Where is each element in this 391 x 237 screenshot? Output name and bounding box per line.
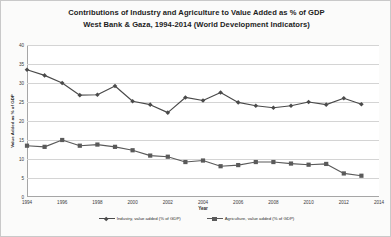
y-axis-tick-label: 25 bbox=[19, 100, 27, 105]
y-axis-tick-label: 35 bbox=[19, 62, 27, 67]
data-point-diamond bbox=[148, 102, 153, 107]
data-point-diamond bbox=[306, 100, 311, 105]
plot-area: 0510152025303540 19941996199820002002200… bbox=[27, 45, 379, 197]
data-point-diamond bbox=[201, 98, 206, 103]
y-axis-tick-label: 30 bbox=[19, 81, 27, 86]
data-point-square bbox=[60, 138, 64, 142]
series-agriculture bbox=[25, 138, 364, 178]
legend-swatch-icon bbox=[207, 216, 223, 221]
data-point-square bbox=[359, 174, 363, 178]
chart-title: Contributions of Industry and Agricultur… bbox=[1, 7, 391, 30]
data-point-square bbox=[219, 164, 223, 168]
series-plot bbox=[27, 45, 379, 197]
data-point-diamond bbox=[359, 102, 364, 107]
chart-image: Contributions of Industry and Agricultur… bbox=[0, 0, 391, 237]
legend-label: Industry, value added (% of GDP) bbox=[117, 216, 181, 221]
x-axis-tick-label: 2006 bbox=[233, 197, 243, 205]
data-point-diamond bbox=[42, 73, 47, 78]
x-axis-tick-label: 2002 bbox=[163, 197, 173, 205]
x-axis-tick-label: 2010 bbox=[303, 197, 313, 205]
series-industry bbox=[25, 67, 364, 115]
legend-entry[interactable]: Agriculture, value added (% of GDP) bbox=[207, 216, 295, 221]
series-line bbox=[27, 140, 361, 176]
data-point-square bbox=[183, 160, 187, 164]
data-point-square bbox=[289, 161, 293, 165]
x-axis-tick-label: 1998 bbox=[92, 197, 102, 205]
chart-legend: Industry, value added (% of GDP)Agricult… bbox=[1, 216, 391, 221]
data-point-square bbox=[166, 155, 170, 159]
data-point-square bbox=[254, 160, 258, 164]
x-axis-tick-label: 2008 bbox=[268, 197, 278, 205]
legend-entry[interactable]: Industry, value added (% of GDP) bbox=[99, 216, 181, 221]
x-axis-tick-label: 1996 bbox=[57, 197, 67, 205]
data-point-square bbox=[95, 142, 99, 146]
x-axis-tick-label: 1994 bbox=[22, 197, 32, 205]
x-axis-tick-label: 2004 bbox=[198, 197, 208, 205]
data-point-square bbox=[236, 163, 240, 167]
y-axis-tick-label: 40 bbox=[19, 43, 27, 48]
data-point-diamond bbox=[25, 67, 30, 72]
chart-title-line-2: West Bank & Gaza, 1994-2014 (World Devel… bbox=[1, 19, 391, 31]
data-point-diamond bbox=[254, 104, 259, 109]
x-axis-tick-label: 2014 bbox=[374, 197, 384, 205]
data-point-diamond bbox=[95, 92, 100, 97]
chart-title-line-1: Contributions of Industry and Agricultur… bbox=[1, 7, 391, 19]
data-point-diamond bbox=[218, 90, 223, 95]
x-axis-tick-label: 2012 bbox=[339, 197, 349, 205]
series-line bbox=[27, 70, 361, 113]
legend-label: Agriculture, value added (% of GDP) bbox=[225, 216, 295, 221]
data-point-square bbox=[43, 145, 47, 149]
legend-swatch-icon bbox=[99, 216, 115, 221]
data-point-diamond bbox=[236, 100, 241, 105]
data-point-square bbox=[25, 144, 29, 148]
data-point-diamond bbox=[271, 105, 276, 110]
y-axis-title: Value Added as % of GDP bbox=[10, 45, 18, 197]
y-axis-tick-label: 15 bbox=[19, 138, 27, 143]
x-axis-tick-label: 2000 bbox=[127, 197, 137, 205]
data-point-square bbox=[131, 148, 135, 152]
x-axis-title: Year bbox=[27, 206, 379, 211]
data-point-square bbox=[342, 171, 346, 175]
data-point-square bbox=[113, 145, 117, 149]
data-point-diamond bbox=[324, 102, 329, 107]
data-point-square bbox=[307, 163, 311, 167]
data-point-diamond bbox=[289, 104, 294, 109]
data-point-diamond bbox=[342, 96, 347, 101]
data-point-square bbox=[78, 144, 82, 148]
data-point-square bbox=[271, 160, 275, 164]
data-point-square bbox=[324, 162, 328, 166]
y-axis-tick-label: 20 bbox=[19, 119, 27, 124]
y-axis-tick-label: 10 bbox=[19, 157, 27, 162]
data-point-square bbox=[148, 153, 152, 157]
data-point-square bbox=[201, 158, 205, 162]
